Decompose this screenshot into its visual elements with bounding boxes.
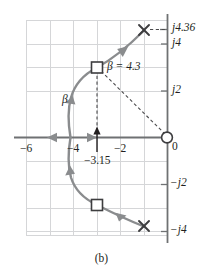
beta-curve-label: β xyxy=(62,94,68,106)
gain-marker-lower xyxy=(92,200,103,211)
dashed-angle-line xyxy=(101,71,164,133)
axis-label-neg-j4: −j4 xyxy=(170,224,187,236)
breakaway-arrow xyxy=(93,127,100,153)
guide-dashed-lines xyxy=(97,30,166,134)
figure-caption: (b) xyxy=(0,252,203,264)
axis-label-neg-j2: −j2 xyxy=(170,177,187,189)
axis-label-j2: j2 xyxy=(172,84,181,96)
axis-label-neg6: −6 xyxy=(20,143,32,155)
axis-label-origin-zero: 0 xyxy=(172,141,178,153)
beta-value-label: β = 4.3 xyxy=(107,61,141,73)
locus-branch-lower xyxy=(69,138,144,227)
zero-marker-origin xyxy=(162,132,173,143)
gain-marker-upper xyxy=(92,62,103,73)
axis-label-neg4: −4 xyxy=(67,143,79,155)
axis-label-neg2: −2 xyxy=(114,143,126,155)
axis-label-j4: j4 xyxy=(172,37,181,49)
breakaway-point-label: −3.15 xyxy=(84,155,111,167)
root-locus-figure: j4.36 j4 j2 0 −j2 −j4 −6 −4 −2 −3.15 β β… xyxy=(0,0,203,276)
imaginary-axis-ticks xyxy=(160,30,167,232)
locus-branch-upper xyxy=(69,31,144,138)
axis-label-j4-36: j4.36 xyxy=(172,22,195,34)
